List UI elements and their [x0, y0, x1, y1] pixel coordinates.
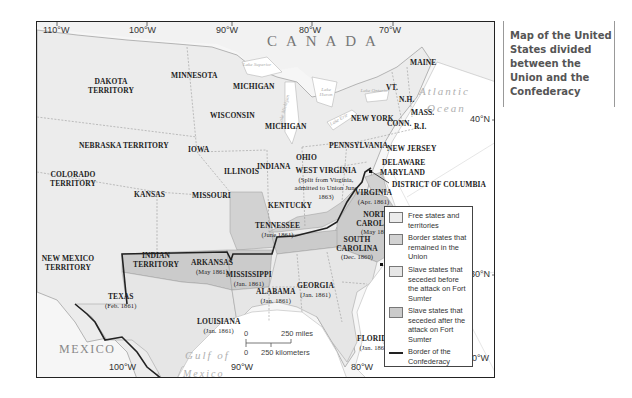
colorado-label: COLORADO TERRITORY [49, 171, 97, 188]
scale-km-zero: 0 [244, 348, 248, 357]
massachusetts-label: MASS. [411, 109, 434, 118]
texas-name: TEXAS [108, 292, 134, 301]
border-states-swatch [389, 234, 403, 245]
dc-marker [369, 170, 372, 173]
mexico-water-label: Mexico [183, 368, 224, 378]
legend-item-free: Free states and territories [389, 211, 470, 230]
map-legend: Free states and territories Border state… [384, 206, 473, 367]
tennessee-name: TENNESSEE [255, 221, 300, 230]
coord-top-70w: 70°W [379, 25, 401, 35]
tennessee-date: (June 1861) [262, 231, 294, 238]
coord-top-110w: 110°W [43, 25, 69, 35]
virginia-label: VIRGINIA (Apr. 1861) [355, 189, 392, 206]
legend-item-seceded-after: Slave states that seceded after the atta… [389, 306, 470, 344]
missouri-label: MISSOURI [192, 192, 231, 201]
legend-label: Slave states that seceded before the att… [408, 265, 470, 303]
connecticut-label: CONN. [387, 120, 411, 129]
new-jersey-label: NEW JERSEY [387, 145, 436, 154]
caption-text: Map of the United States divided between… [510, 21, 614, 99]
new-hampshire-label: N.H. [399, 96, 414, 105]
maine-label: MAINE [410, 59, 436, 68]
lake-ontario-label: Lake Ontario [359, 88, 389, 93]
louisiana-label: LOUISIANA (Jan. 1861) [197, 318, 240, 335]
virginia-date: (Apr. 1861) [358, 198, 389, 205]
arkansas-name: ARKANSAS [191, 258, 233, 267]
south-carolina-date: (Dec. 1860) [341, 253, 373, 260]
coord-right-40n: 40°N [470, 114, 490, 124]
georgia-name: GEORGIA [297, 281, 334, 290]
seceded-before-swatch [389, 266, 403, 277]
west-virginia-note: (Split from Virginia, admitted to Union … [294, 176, 357, 200]
alabama-date: (Jan. 1861) [261, 297, 291, 304]
texas-date: (Feb. 1861) [105, 302, 136, 309]
scale-km-label: 250 kilometers [261, 348, 310, 357]
lake-superior-label: Lake Superior [242, 62, 272, 67]
legend-item-confederacy-border: Border of the Confederacy [389, 347, 470, 366]
legend-label: Slave states that seceded after the atta… [408, 306, 470, 344]
legend-label: Free states and territories [408, 211, 470, 230]
illinois-label: ILLINOIS [224, 168, 259, 177]
legend-item-seceded-before: Slave states that seceded before the att… [389, 265, 470, 303]
rhode-island-label: R.I. [414, 123, 427, 132]
michigan-label: MICHIGAN [265, 123, 307, 132]
kentucky-label: KENTUCKY [268, 202, 312, 211]
lake-huron-label: Lake Huron [315, 87, 337, 97]
alabama-label: ALABAMA (Jan. 1861) [256, 288, 295, 305]
iowa-label: IOWA [188, 146, 209, 155]
georgia-label: GEORGIA (Jan. 1861) [297, 282, 334, 299]
coord-top-100w: 100°W [129, 25, 156, 35]
coord-bottom-90w: 90°W [231, 362, 253, 372]
confederacy-border-line-icon [389, 352, 403, 354]
coord-top-90w: 90°W [216, 25, 238, 35]
ohio-label: OHIO [296, 154, 317, 163]
louisiana-name: LOUISIANA [197, 317, 240, 326]
south-carolina-name: SOUTH CAROLINA [336, 235, 378, 253]
indian-territory-label: INDIAN TERRITORY [131, 252, 181, 269]
arkansas-date: (May 1861) [196, 268, 228, 275]
free-states-swatch [389, 212, 403, 223]
virginia-name: VIRGINIA [355, 188, 392, 197]
louisiana-date: (Jan. 1861) [204, 327, 234, 334]
vermont-label: VT. [386, 84, 398, 93]
indiana-label: INDIANA [257, 163, 291, 172]
west-virginia-label: WEST VIRGINIA (Split from Virginia, admi… [293, 167, 359, 201]
legend-label: Border of the Confederacy [408, 347, 470, 366]
mississippi-label: MISSISSIPPI (Jan. 1861) [226, 271, 272, 288]
fort-sumter-marker [380, 263, 383, 266]
delaware-label: DELAWARE [382, 159, 425, 168]
alabama-name: ALABAMA [256, 287, 295, 296]
nebraska-label: NEBRASKA TERRITORY [79, 142, 169, 151]
michigan-up-label: MICHIGAN [233, 83, 275, 92]
georgia-date: (Jan. 1861) [300, 291, 330, 298]
south-carolina-label: SOUTH CAROLINA (Dec. 1860) [335, 236, 379, 262]
tennessee-label: TENNESSEE (June 1861) [255, 222, 300, 239]
scale-miles-zero: 0 [244, 329, 248, 338]
dc-label: DISTRICT OF COLUMBIA [392, 181, 486, 190]
scale-miles-label: 250 miles [281, 329, 313, 338]
new-mexico-label: NEW MEXICO TERRITORY [41, 255, 95, 272]
coord-bottom-80w: 80°W [351, 362, 373, 372]
coord-right-30n: 30°N [470, 269, 490, 279]
gulf-of-label: Gulf of [185, 349, 230, 361]
mississippi-date: (Jan. 1861) [234, 280, 264, 287]
canada-label: C A N A D A [267, 33, 379, 50]
legend-item-border-states: Border states that remained in the Union [389, 233, 470, 262]
dakota-label: DAKOTA TERRITORY [81, 78, 141, 95]
map-caption: Map of the United States divided between… [503, 21, 615, 107]
coord-bottom-100w: 100°W [109, 362, 136, 372]
maryland-label: MARYLAND [380, 169, 425, 178]
kansas-label: KANSAS [134, 191, 165, 200]
legend-label: Border states that remained in the Union [408, 233, 470, 262]
wisconsin-label: WISCONSIN [210, 112, 255, 121]
texas-label: TEXAS (Feb. 1861) [105, 293, 136, 310]
seceded-after-swatch [389, 307, 403, 318]
mexico-label: MEXICO [59, 342, 115, 357]
minnesota-label: MINNESOTA [171, 72, 218, 81]
mississippi-name: MISSISSIPPI [226, 270, 272, 279]
pennsylvania-label: PENNSYLVANIA [329, 142, 388, 151]
atlantic-label: Atlantic [419, 85, 470, 97]
west-virginia-name: WEST VIRGINIA [296, 166, 357, 175]
